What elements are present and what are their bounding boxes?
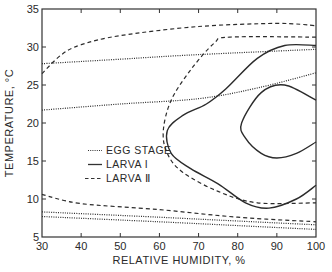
- legend-item-egg-stage: EGG STAGE: [88, 144, 172, 156]
- chart-svg: 30405060708090100 5101520253035 RELATIVE…: [0, 0, 332, 272]
- series-solid-inner-optimum: [241, 85, 316, 158]
- x-tick-label: 60: [153, 240, 165, 252]
- legend-item-larva-2: LARVA Ⅱ: [85, 172, 150, 184]
- legend-label: LARVA Ⅱ: [106, 172, 150, 184]
- legend-item-larva-1: LARVA I: [88, 158, 148, 170]
- x-tick-label: 50: [114, 240, 126, 252]
- series-dashed-optimum-envelope: [163, 37, 316, 204]
- x-axis-title: RELATIVE HUMIDITY, %: [112, 254, 245, 266]
- legend: EGG STAGE LARVA I LARVA Ⅱ: [85, 144, 172, 184]
- y-axis-title: TEMPERATURE, °C: [3, 69, 15, 177]
- temperature-humidity-chart: 30405060708090100 5101520253035 RELATIVE…: [0, 0, 332, 272]
- y-tick-label: 25: [27, 79, 39, 91]
- plot-border: [42, 9, 316, 237]
- legend-label: EGG STAGE: [106, 144, 172, 156]
- series-dotted-upper-bound: [42, 49, 316, 63]
- x-tick-label: 70: [192, 240, 204, 252]
- x-tick-label: 40: [75, 240, 87, 252]
- y-tick-label: 30: [27, 41, 39, 53]
- y-tick-label: 10: [27, 193, 39, 205]
- plot-frame: [42, 9, 316, 237]
- x-tick-label: 100: [307, 240, 325, 252]
- series-dotted-lower-optimum-bound: [42, 73, 316, 110]
- x-tick-label: 80: [232, 240, 244, 252]
- series-dashed-lower-bound: [42, 194, 316, 221]
- x-tick-label: 90: [271, 240, 283, 252]
- legend-label: LARVA I: [106, 158, 148, 170]
- y-tick-label: 35: [27, 3, 39, 15]
- y-tick-label: 5: [33, 231, 39, 243]
- y-tick-label: 20: [27, 117, 39, 129]
- series-dotted-low-bound-1: [42, 212, 316, 225]
- data-series: [42, 23, 316, 229]
- y-tick-label: 15: [27, 155, 39, 167]
- x-axis-ticks: 30405060708090100: [36, 9, 325, 252]
